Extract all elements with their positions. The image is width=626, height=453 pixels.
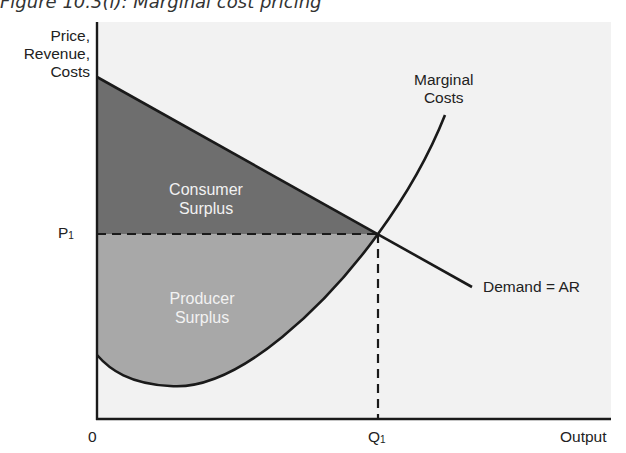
producer-surplus-label: Producer Surplus [152,289,252,327]
x-tick-q1: Q1 [368,428,386,446]
demand-ar-label: Demand = AR [483,278,580,296]
marginal-costs-label: Marginal Costs [414,71,473,107]
x-axis-label: Output [560,428,607,446]
consumer-surplus-label: Consumer Surplus [156,180,256,218]
y-tick-p1: P1 [58,224,74,242]
x-tick-origin: 0 [88,428,97,446]
y-axis-label: Price, Revenue, Costs [24,27,90,81]
chart-canvas [0,0,626,453]
